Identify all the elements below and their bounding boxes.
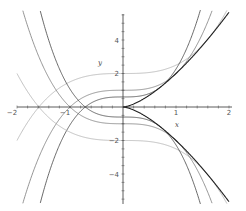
solution-curve <box>17 74 227 204</box>
solution-curve <box>40 10 200 203</box>
solution-curve <box>17 10 227 140</box>
y-tick-label: −2 <box>109 137 119 145</box>
x-tick-label: −1 <box>60 109 70 117</box>
y-axis-label: y <box>97 59 103 67</box>
solution-curve <box>40 11 200 204</box>
plot-area: −2−112 −4−224 x y <box>0 0 246 211</box>
y-tick-label: −4 <box>109 171 120 179</box>
y-tick-label: 2 <box>115 70 119 78</box>
x-tick-label: −2 <box>7 109 17 117</box>
envelope-curve <box>123 12 229 107</box>
x-tick-label: 2 <box>227 109 231 117</box>
x-tick-label: 1 <box>174 109 178 117</box>
y-tick-label: 4 <box>115 37 120 45</box>
x-axis-label: x <box>175 121 179 129</box>
